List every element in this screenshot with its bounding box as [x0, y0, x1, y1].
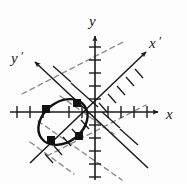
x-prime-label-prime-symbol: ′ [159, 33, 162, 48]
marker-vertex-bottom-left [47, 136, 55, 144]
marker-vertex-left [42, 105, 50, 113]
ellipse-group [29, 90, 96, 155]
y-prime-axis-group [35, 62, 148, 168]
y-prime-axis-line [35, 62, 148, 168]
dashed-cross-c [30, 142, 74, 174]
x-prime-axis-label: x [148, 35, 156, 51]
y-prime-label-prime-symbol: ′ [21, 48, 24, 63]
y-prime-axis-label: y [9, 50, 18, 66]
marker-vertex-bottom-right [75, 132, 83, 140]
rotated-axes-ellipse-diagram: x y x ′ y ′ [0, 0, 187, 184]
y-axis-label: y [87, 13, 96, 29]
ellipse-curve [29, 90, 96, 155]
ellipse-vertex-markers [42, 99, 83, 144]
y-prime-axis-label-group: y ′ [9, 48, 24, 66]
x-prime-axis-label-group: x ′ [148, 33, 162, 51]
marker-vertex-top-right [73, 99, 81, 107]
dashed-cross-a [38, 121, 122, 180]
figure-container: x y x ′ y ′ [0, 0, 187, 184]
x-axis-label: x [165, 106, 173, 122]
